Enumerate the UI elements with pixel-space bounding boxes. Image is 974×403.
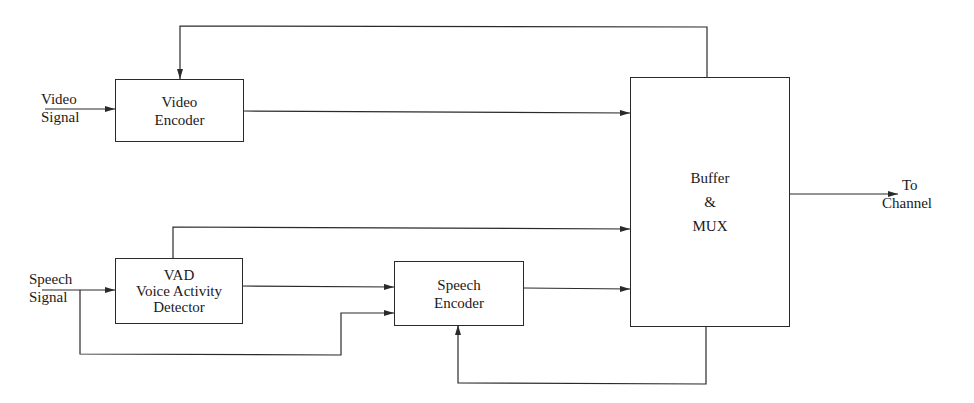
buffer-mux-label-line2: &	[704, 190, 716, 214]
arrow-vad-to-mux	[173, 227, 630, 258]
video-signal-label-line2: Signal	[41, 108, 79, 126]
speech-signal-label: Speech Signal	[29, 270, 72, 306]
video-signal-label-line1: Video	[41, 90, 79, 108]
speech-signal-label-line2: Signal	[29, 288, 72, 306]
arrow-mux-feedback-to-speech-encoder	[458, 325, 706, 384]
video-signal-label: Video Signal	[41, 90, 79, 126]
connection-wires	[0, 0, 974, 403]
to-channel-label: To Channel	[882, 176, 932, 212]
buffer-mux-label-line3: MUX	[692, 214, 727, 238]
arrow-speech-encoder-to-mux	[524, 288, 630, 289]
arrow-vad-to-speech-encoder	[242, 286, 394, 287]
vad-label-line2: Voice Activity	[136, 283, 222, 299]
to-channel-label-line1: To	[882, 176, 932, 194]
buffer-mux-label-line1: Buffer	[691, 166, 730, 190]
speech-signal-label-line1: Speech	[29, 270, 72, 288]
video-encoder-block: Video Encoder	[115, 79, 244, 142]
arrow-mux-feedback-to-video-encoder	[180, 26, 707, 79]
to-channel-label-line2: Channel	[882, 194, 932, 212]
video-encoder-label-line1: Video	[162, 93, 198, 111]
speech-encoder-block: Speech Encoder	[394, 261, 524, 326]
buffer-mux-block: Buffer & MUX	[630, 77, 790, 327]
vad-label-line1: VAD	[164, 267, 195, 283]
arrow-video-encoder-to-mux	[244, 111, 630, 113]
vad-block: VAD Voice Activity Detector	[115, 258, 243, 324]
speech-encoder-label-line2: Encoder	[434, 294, 484, 312]
video-encoder-label-line2: Encoder	[155, 111, 205, 129]
speech-encoder-label-line1: Speech	[437, 276, 480, 294]
vad-label-line3: Detector	[153, 299, 205, 315]
